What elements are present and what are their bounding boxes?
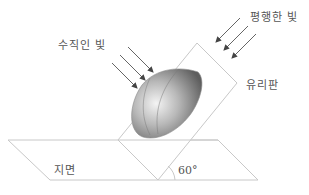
perpendicular-light-label: 수직인 빛 xyxy=(58,36,107,52)
diagram-svg xyxy=(0,0,309,195)
ground-label: 지면 xyxy=(54,161,76,177)
diagram-canvas: 수직인 빛 평행한 빛 유리판 지면 60° xyxy=(0,0,309,195)
parallel-light-arrows xyxy=(216,18,256,58)
angle-label: 60° xyxy=(178,164,198,177)
angle-arc xyxy=(168,166,175,180)
glass-plate-label: 유리판 xyxy=(246,76,279,92)
parallel-light-label: 평행한 빛 xyxy=(250,8,299,24)
